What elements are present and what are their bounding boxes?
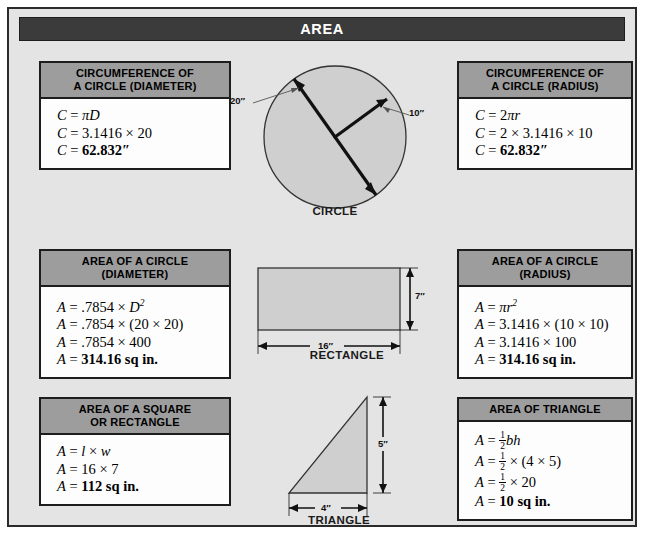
formula-line: A = 10 sq in. [475, 493, 631, 511]
formula-line: A = .7854 × (20 × 20) [57, 316, 229, 334]
formula-box-area-square-rectangle: AREA OF A SQUARE OR RECTANGLE A = l × w … [39, 397, 231, 506]
header-line-2: A CIRCLE (DIAMETER) [73, 80, 196, 92]
formula-box-body: A = πr2 A = 3.1416 × (10 × 10) A = 3.141… [459, 287, 631, 377]
formula-box-circumference-radius: CIRCUMFERENCE OF A CIRCLE (RADIUS) C = 2… [457, 61, 633, 170]
formula-line: A = 3.1416 × 100 [475, 334, 631, 352]
header-line-2: (RADIUS) [519, 268, 570, 280]
header-line-2: OR RECTANGLE [90, 416, 180, 428]
circle-center-dot [333, 135, 336, 138]
formula-line: A = 12bh [475, 430, 631, 451]
header-line-1: CIRCUMFERENCE OF [76, 67, 194, 79]
header-line-1: AREA OF TRIANGLE [489, 403, 601, 415]
formula-line: A = 314.16 sq in. [475, 351, 631, 369]
circle-caption: CIRCLE [237, 205, 433, 217]
page-title: AREA [19, 17, 625, 41]
triangle-caption: TRIANGLE [249, 514, 429, 526]
formula-line: C = 2 × 3.1416 × 10 [475, 125, 631, 143]
triangle-height-label: 5″ [378, 438, 388, 449]
circle-svg [237, 57, 433, 222]
poster-page: AREA CIRCUMFERENCE OF A CIRCLE (DIAMETER… [7, 7, 637, 527]
formula-line: C = 62.832″ [475, 142, 631, 160]
formula-box-header: CIRCUMFERENCE OF A CIRCLE (RADIUS) [459, 63, 631, 99]
formula-box-header: AREA OF A CIRCLE (DIAMETER) [41, 251, 229, 287]
formula-box-body: C = πD C = 3.1416 × 20 C = 62.832″ [41, 99, 229, 168]
formula-box-body: C = 2πr C = 2 × 3.1416 × 10 C = 62.832″ [459, 99, 631, 168]
formula-box-area-circle-radius: AREA OF A CIRCLE (RADIUS) A = πr2 A = 3.… [457, 249, 633, 379]
formula-line: A = 314.16 sq in. [57, 351, 229, 369]
formula-line: A = 12 × 20 [475, 472, 631, 493]
header-line-1: AREA OF A CIRCLE [82, 255, 188, 267]
triangle-svg [249, 389, 429, 519]
header-line-2: (DIAMETER) [102, 268, 169, 280]
rectangle-shape [258, 268, 400, 330]
formula-box-circumference-diameter: CIRCUMFERENCE OF A CIRCLE (DIAMETER) C =… [39, 61, 231, 170]
circle-diameter-label: 20″ [230, 95, 245, 106]
formula-line: A = l × w [57, 443, 229, 461]
circle-diagram: 20″ 10″ [237, 57, 433, 222]
formula-line: C = 3.1416 × 20 [57, 125, 229, 143]
formula-box-header: AREA OF TRIANGLE [459, 399, 631, 422]
formula-box-area-triangle: AREA OF TRIANGLE A = 12bh A = 12 × (4 × … [457, 397, 633, 521]
header-line-1: AREA OF A CIRCLE [492, 255, 598, 267]
formula-box-header: AREA OF A CIRCLE (RADIUS) [459, 251, 631, 287]
rectangle-height-label: 7″ [415, 290, 425, 301]
formula-line: A = 112 sq in. [57, 478, 229, 496]
formula-line: C = πD [57, 107, 229, 125]
formula-line: A = 12 × (4 × 5) [475, 451, 631, 472]
formula-box-body: A = l × w A = 16 × 7 A = 112 sq in. [41, 435, 229, 504]
formula-box-body: A = 12bh A = 12 × (4 × 5) A = 12 × 20 A … [459, 422, 631, 519]
triangle-diagram: 5″ 4″ [249, 389, 429, 519]
triangle-shape [289, 397, 367, 493]
formula-box-area-circle-diameter: AREA OF A CIRCLE (DIAMETER) A = .7854 × … [39, 249, 231, 379]
header-line-1: AREA OF A SQUARE [79, 403, 192, 415]
header-line-1: CIRCUMFERENCE OF [486, 67, 604, 79]
formula-box-header: AREA OF A SQUARE OR RECTANGLE [41, 399, 229, 435]
formula-line: A = 16 × 7 [57, 461, 229, 479]
formula-line: C = 2πr [475, 107, 631, 125]
formula-line: A = 3.1416 × (10 × 10) [475, 316, 631, 334]
formula-line: A = .7854 × 400 [57, 334, 229, 352]
rectangle-caption: RECTANGLE [252, 349, 442, 361]
formula-box-body: A = .7854 × D2 A = .7854 × (20 × 20) A =… [41, 287, 229, 377]
triangle-base-label: 4″ [321, 502, 331, 513]
circle-radius-label: 10″ [409, 107, 424, 118]
formula-line: A = πr2 [475, 295, 631, 316]
formula-box-header: CIRCUMFERENCE OF A CIRCLE (DIAMETER) [41, 63, 229, 99]
formula-line: A = .7854 × D2 [57, 295, 229, 316]
formula-line: C = 62.832″ [57, 142, 229, 160]
header-line-2: A CIRCLE (RADIUS) [491, 80, 599, 92]
